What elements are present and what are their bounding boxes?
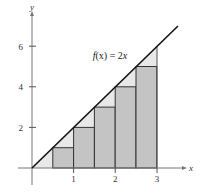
x-ticks: [74, 168, 157, 173]
y-tick-label-4: 4: [19, 82, 24, 92]
function-label: f(x) = 2x: [93, 50, 128, 62]
y-axis-label: y: [29, 2, 34, 12]
bar-5: [136, 67, 157, 169]
x-axis-label: x: [188, 163, 193, 173]
bar-3: [94, 107, 115, 168]
x-tick-label-3: 3: [155, 174, 160, 184]
bar-4: [115, 87, 136, 168]
bar-2: [74, 127, 95, 168]
y-tick-label-2: 2: [19, 123, 24, 133]
riemann-sum-chart: 1 2 3 2 4 6 x y f(x) = 2x: [0, 0, 201, 194]
x-tick-label-1: 1: [71, 174, 76, 184]
rectangles: [53, 67, 157, 169]
y-tick-label-6: 6: [19, 42, 24, 52]
x-axis-arrow-icon: [182, 166, 187, 170]
bar-1: [53, 148, 74, 168]
x-tick-label-2: 2: [113, 174, 118, 184]
